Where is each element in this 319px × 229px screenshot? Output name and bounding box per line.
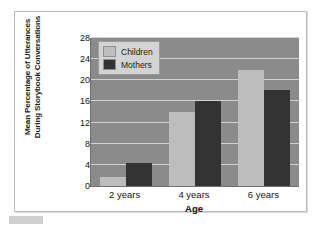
- y-axis-tick-label: 28: [80, 33, 90, 43]
- legend-swatch-children-icon: [103, 46, 116, 57]
- caption-chip: [9, 216, 43, 224]
- legend-swatch-mothers-icon: [103, 59, 116, 70]
- bar-mothers-6-years: [264, 90, 290, 186]
- y-axis-tick-label: 20: [80, 75, 90, 85]
- bar-mothers-4-years: [195, 101, 221, 186]
- figure-frame: Mean Percentage of Utterances During Sto…: [14, 11, 307, 212]
- y-axis-title: Mean Percentage of Utterances During Sto…: [23, 0, 53, 157]
- bar-children-2-years: [100, 177, 126, 187]
- y-axis-tick-labels: 0481216202428: [76, 26, 90, 186]
- bar-group: [238, 38, 290, 186]
- y-axis-tick-label: 16: [80, 96, 90, 106]
- x-axis-category-label: 6 years: [248, 189, 279, 200]
- chart-legend: Children Mothers: [98, 41, 160, 75]
- plot-wrapper: 0481216202428 Children Mothers: [76, 26, 304, 201]
- y-axis-title-line-1: Mean Percentage of Utterances: [23, 0, 33, 157]
- legend-label-mothers: Mothers: [121, 60, 152, 70]
- x-axis-category-label: 2 years: [109, 189, 140, 200]
- legend-item-children: Children: [103, 45, 153, 58]
- legend-label-children: Children: [121, 47, 153, 57]
- x-axis-category-labels: 2 years4 years6 years: [90, 189, 298, 200]
- plot-area: Children Mothers: [90, 38, 299, 187]
- bar-mothers-2-years: [126, 163, 152, 186]
- y-axis-tick-label: 24: [80, 54, 90, 64]
- x-axis-category-label: 4 years: [178, 189, 209, 200]
- bar-group: [169, 38, 221, 186]
- x-axis-title: Age: [90, 203, 298, 214]
- y-axis-tick-label: 12: [80, 118, 90, 128]
- legend-item-mothers: Mothers: [103, 58, 153, 71]
- bar-children-4-years: [169, 112, 195, 186]
- bar-children-6-years: [238, 70, 264, 186]
- y-axis-title-line-2: During Storybook Conversations: [33, 0, 43, 157]
